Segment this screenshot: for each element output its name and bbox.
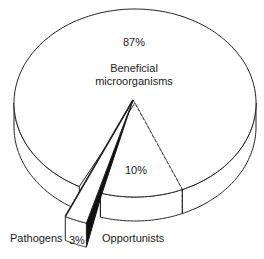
pathogens-percent-label: 3% <box>69 234 85 246</box>
beneficial-percent-label: 87% <box>123 36 145 48</box>
opportunists-percent-label: 10% <box>125 164 147 176</box>
beneficial-name-label-line2: microorganisms <box>95 75 173 87</box>
opportunists-name-label: Opportunists <box>102 232 164 244</box>
beneficial-name-label-line1: Beneficial <box>110 62 158 74</box>
pathogens-name-label: Pathogens <box>10 232 63 244</box>
